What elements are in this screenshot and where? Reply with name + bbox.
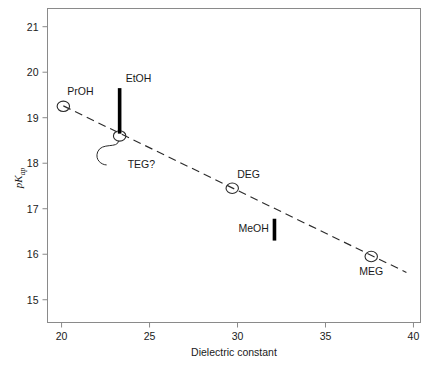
y-tick-label: 18 — [27, 157, 39, 169]
plot-background — [0, 0, 434, 365]
y-tick-label: 17 — [27, 203, 39, 215]
data-point-label: MEG — [359, 265, 383, 277]
y-axis-label-subscript: ap — [18, 168, 27, 176]
x-tick-label: 35 — [320, 330, 332, 342]
y-tick-label: 21 — [27, 21, 39, 33]
scatter-plot: 2025303540 15161718192021 PrOHTEG?DEGMEG… — [0, 0, 434, 365]
bar-marker-label: EtOH — [126, 72, 152, 84]
bar-marker — [118, 88, 122, 134]
x-axis-label: Dielectric constant — [191, 346, 277, 358]
y-tick-label: 15 — [27, 294, 39, 306]
chart-container: 2025303540 15161718192021 PrOHTEG?DEGMEG… — [0, 0, 434, 365]
x-tick-label: 25 — [144, 330, 156, 342]
bar-marker-label: MeOH — [238, 222, 268, 234]
x-tick-label: 40 — [408, 330, 420, 342]
bar-marker — [273, 219, 277, 241]
y-tick-label: 19 — [27, 112, 39, 124]
x-tick-label: 30 — [232, 330, 244, 342]
x-tick-label: 20 — [56, 330, 68, 342]
y-tick-label: 16 — [27, 248, 39, 260]
data-point-label: PrOH — [67, 85, 93, 97]
data-point-label: TEG? — [128, 158, 156, 170]
data-point-label: DEG — [237, 168, 260, 180]
y-tick-label: 20 — [27, 66, 39, 78]
y-axis-label-main: pK — [12, 175, 24, 190]
